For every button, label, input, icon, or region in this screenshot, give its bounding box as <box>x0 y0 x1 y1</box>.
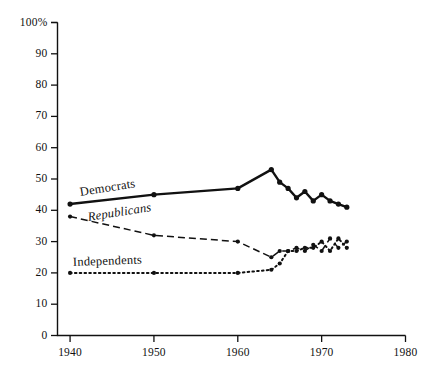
y-tick-label-0: 0 <box>42 330 48 342</box>
series-label-independents: Independents <box>73 253 143 270</box>
x-tick-label-1970: 1970 <box>292 347 352 359</box>
x-tick-label-1980: 1980 <box>376 347 433 359</box>
x-tick-label-1940: 1940 <box>40 347 100 359</box>
x-tick-label-1960: 1960 <box>208 347 268 359</box>
y-tick-label-10: 10 <box>36 298 48 310</box>
y-tick-label-50: 50 <box>36 173 48 185</box>
y-tick-label-40: 40 <box>36 204 48 216</box>
y-tick-label-70: 70 <box>36 110 48 122</box>
line-chart: 100% 90 80 70 60 50 40 30 20 10 0 1940 1… <box>0 0 433 378</box>
x-tick-label-1950: 1950 <box>124 347 184 359</box>
y-tick-label-80: 80 <box>36 79 48 91</box>
y-tick-label-20: 20 <box>36 267 48 279</box>
chart-plot-area <box>0 0 433 378</box>
y-tick-label-100: 100% <box>20 17 48 29</box>
y-tick-label-60: 60 <box>36 142 48 154</box>
y-tick-label-30: 30 <box>36 236 48 248</box>
y-tick-label-90: 90 <box>36 48 48 60</box>
